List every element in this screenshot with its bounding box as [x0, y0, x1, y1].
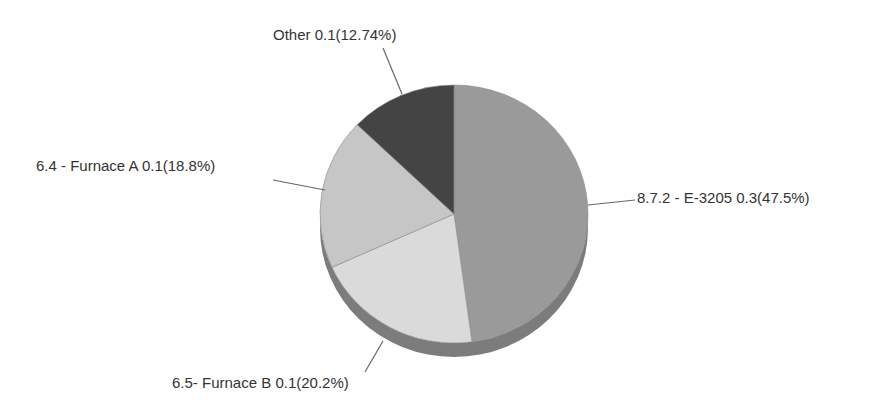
pie-slice-8-7-2-e-3205: [454, 85, 588, 342]
label-furnace-b: 6.5- Furnace B 0.1(20.2%): [172, 374, 349, 392]
leader-line: [383, 48, 402, 94]
leader-line: [588, 200, 635, 205]
pie-slices: [320, 85, 588, 343]
label-other: Other 0.1(12.74%): [273, 26, 396, 44]
label-furnace-a: 6.4 - Furnace A 0.1(18.8%): [36, 157, 215, 175]
leader-line: [365, 341, 383, 372]
leader-line: [273, 180, 325, 190]
pie-chart: [0, 0, 878, 419]
label-e3205: 8.7.2 - E-3205 0.3(47.5%): [637, 189, 810, 207]
